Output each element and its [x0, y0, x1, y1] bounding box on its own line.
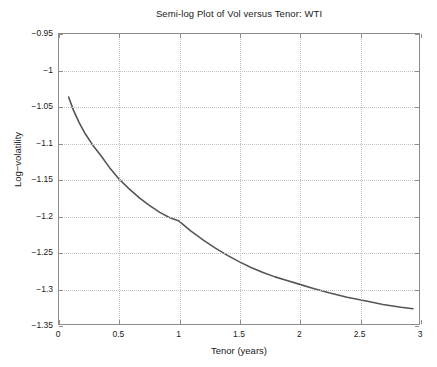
x-tick-label: 2 [279, 329, 319, 339]
x-tick-mark [59, 34, 60, 38]
y-tick-mark [59, 71, 63, 72]
y-tick-mark [415, 290, 419, 291]
y-tick-label: −1.25 [5, 247, 53, 257]
x-tick-label: 2.5 [340, 329, 380, 339]
gridline-vertical [361, 34, 362, 324]
gridline-horizontal [59, 107, 419, 108]
x-tick-label: 1 [159, 329, 199, 339]
x-tick-mark [180, 34, 181, 38]
y-tick-mark [415, 253, 419, 254]
x-axis-tick-labels: 00.511.522.53 [58, 329, 420, 343]
x-tick-mark [119, 34, 120, 38]
y-tick-mark [415, 180, 419, 181]
gridline-horizontal [59, 253, 419, 254]
x-tick-mark [361, 320, 362, 324]
x-tick-mark [421, 34, 422, 38]
gridline-vertical [180, 34, 181, 324]
y-tick-mark [59, 253, 63, 254]
y-tick-label: −1 [5, 65, 53, 75]
x-tick-mark [300, 320, 301, 324]
x-axis-label: Tenor (years) [58, 345, 420, 356]
x-tick-mark [421, 320, 422, 324]
gridline-horizontal [59, 217, 419, 218]
x-tick-label: 1.5 [219, 329, 259, 339]
y-axis-label: Log−volatility [12, 110, 23, 210]
gridline-vertical [240, 34, 241, 324]
x-tick-mark [119, 320, 120, 324]
chart-title: Semi-log Plot of Vol versus Tenor: WTI [58, 8, 420, 19]
x-tick-mark [300, 34, 301, 38]
curve-svg [59, 34, 419, 324]
gridline-horizontal [59, 144, 419, 145]
x-tick-mark [361, 34, 362, 38]
y-tick-mark [415, 107, 419, 108]
y-tick-mark [415, 71, 419, 72]
y-tick-label: −1.2 [5, 211, 53, 221]
x-tick-mark [180, 320, 181, 324]
y-tick-mark [59, 217, 63, 218]
y-tick-mark [59, 290, 63, 291]
x-tick-label: 3 [400, 329, 437, 339]
gridline-vertical [119, 34, 120, 324]
plot-area [58, 33, 420, 325]
y-tick-mark [415, 144, 419, 145]
y-tick-mark [415, 217, 419, 218]
x-tick-mark [59, 320, 60, 324]
x-tick-mark [240, 34, 241, 38]
y-tick-label: −0.95 [5, 28, 53, 38]
y-tick-label: −1.3 [5, 284, 53, 294]
y-tick-mark [415, 34, 419, 35]
chart-figure: Semi-log Plot of Vol versus Tenor: WTI −… [0, 0, 437, 367]
x-tick-label: 0 [38, 329, 78, 339]
y-axis-tick-labels: −0.95−1−1.05−1.1−1.15−1.2−1.25−1.3−1.35 [0, 33, 53, 325]
y-tick-mark [415, 326, 419, 327]
y-tick-mark [59, 180, 63, 181]
x-tick-mark [240, 320, 241, 324]
gridline-horizontal [59, 290, 419, 291]
y-tick-mark [59, 107, 63, 108]
gridline-vertical [300, 34, 301, 324]
gridline-horizontal [59, 71, 419, 72]
y-tick-mark [59, 144, 63, 145]
y-tick-mark [59, 326, 63, 327]
x-tick-label: 0.5 [98, 329, 138, 339]
gridline-horizontal [59, 180, 419, 181]
